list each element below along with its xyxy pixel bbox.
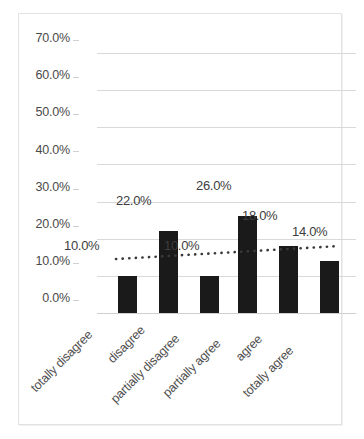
x-axis-label-disagree: disagree (105, 323, 148, 366)
x-axis-labels: totally disagree disagree partially disa… (0, 0, 364, 439)
chart-screenshot: 70.0% 60.0% 50.0% 40.0% 30.0% 20.0% 10.0… (0, 0, 364, 439)
x-axis-label-totally-disagree: totally disagree (28, 328, 95, 395)
x-axis-label-agree: agree (233, 332, 265, 364)
